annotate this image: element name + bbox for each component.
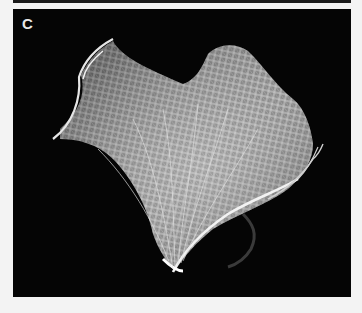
figure-panel-c: C [13,9,351,297]
panel-label: C [22,16,33,31]
previous-panel-edge [13,0,351,3]
bone-scan-image [13,9,351,297]
